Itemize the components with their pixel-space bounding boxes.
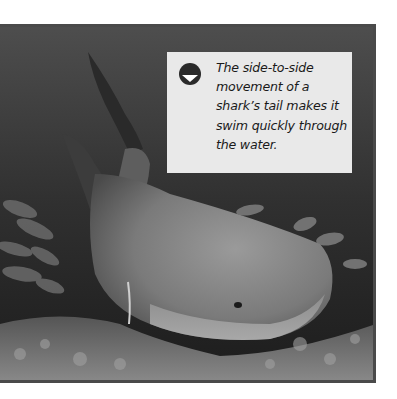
caption-box: The side-to-side movement of a shark’s t…	[167, 52, 352, 173]
caption-text: The side-to-side movement of a shark’s t…	[216, 58, 348, 154]
down-arrow-circle-icon	[179, 63, 201, 85]
